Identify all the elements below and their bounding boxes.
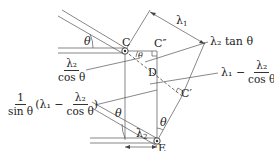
arrowhead-lambda1-top	[150, 12, 156, 16]
point-label-c-prime: C′	[181, 88, 192, 99]
annotation-lambda2-tan: λ₂ tan θ	[210, 36, 253, 47]
right-angle-cdoubleprime	[152, 51, 157, 56]
point-label-d: D	[148, 67, 157, 78]
leader-left-expr	[95, 90, 157, 105]
point-label-e: E	[158, 143, 166, 151]
arrowhead-lambda2-left	[125, 145, 130, 149]
annotation-lambda2-over-cos: λ₂ cos θ	[58, 58, 85, 83]
lambda1-label: λ1	[176, 15, 187, 28]
annotation-left-expression: 1 sin θ (λ₁ − λ₂ cos θ )	[8, 92, 98, 117]
angle-label-e-left: θ	[115, 108, 122, 119]
angle-label-at-c: θ	[138, 52, 143, 60]
lambda2-label: λ2	[136, 128, 147, 141]
point-label-c: C	[122, 37, 130, 48]
angle-label-e-right: θ	[160, 117, 167, 128]
angle-label-top-left: θ	[84, 36, 91, 47]
arrowhead-lambda1-bottom	[199, 40, 205, 44]
beam-upper-1	[62, 10, 127, 49]
annotation-lambda1-minus: λ₁ − λ₂ cos θ	[221, 60, 274, 85]
beam-lower-2	[92, 102, 160, 140]
point-label-c-double-prime: C″	[154, 38, 167, 49]
leader-lambda2-cos	[86, 58, 140, 70]
leader-lambda1-minus	[150, 73, 218, 84]
